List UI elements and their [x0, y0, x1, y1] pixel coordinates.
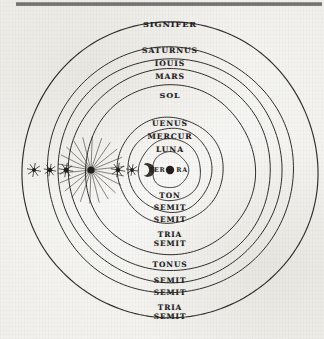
- center-dot: [166, 166, 174, 174]
- star-glyph-2: [44, 164, 56, 176]
- diagram-page: SIGNIFERSATURNUSIOUISMARSSOLUENUSMERCURL…: [0, 0, 324, 339]
- cosmological-spheres-svg: [0, 0, 324, 339]
- star-glyph-3: [59, 163, 74, 178]
- star-glyph-1: [27, 163, 41, 177]
